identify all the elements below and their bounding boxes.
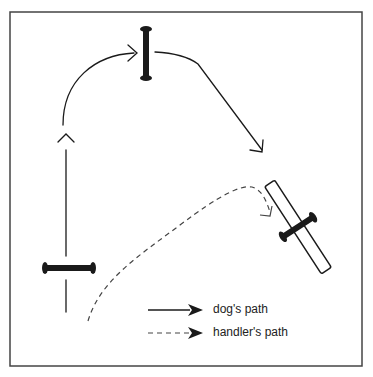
handler-path [88,187,270,321]
diagram-canvas: dog's path handler's path [0,0,373,377]
diagram-frame [10,12,362,366]
dog-path [58,45,263,312]
jump-right-icon [252,172,344,282]
legend-label-handler: handler's path [213,325,288,339]
legend [148,304,203,339]
jump-left-icon [42,262,96,274]
handler-arrowhead [260,206,272,216]
jump-top-icon [140,26,152,81]
legend-label-dog: dog's path [213,302,268,316]
legend-solid-arrow-icon [188,304,203,316]
legend-dashed-arrow-icon [188,327,203,339]
